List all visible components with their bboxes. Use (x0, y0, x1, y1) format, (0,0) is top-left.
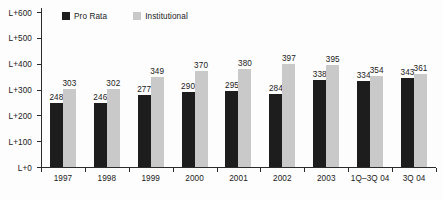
bar-value-label: 343 (401, 68, 415, 77)
x-axis-category-label: 2000 (185, 174, 204, 183)
bar-pair: 246302 (94, 89, 120, 167)
bar-pair: 343361 (401, 74, 427, 167)
bar-institutional (195, 71, 208, 167)
x-axis-tick (173, 168, 174, 172)
bar-pro-rata (138, 95, 151, 167)
x-axis-tick (304, 168, 305, 172)
bar-pro-rata (269, 94, 282, 167)
y-axis-tick: L+500 (37, 38, 41, 39)
x-axis-category-label: 3Q 04 (403, 174, 426, 183)
bar-institutional (414, 74, 427, 167)
bar-value-label: 334 (357, 71, 371, 80)
y-axis-tick-label: L+0 (18, 163, 32, 172)
bar-pair: 284397 (269, 64, 295, 167)
bar-institutional (63, 89, 76, 167)
bar-value-label: 277 (137, 85, 151, 94)
bar-pair: 295380 (225, 69, 251, 167)
bar-group: 3433613Q 04 (392, 74, 436, 167)
bar-pair: 248303 (50, 89, 76, 167)
bar-value-label: 302 (106, 79, 120, 88)
bar-group: 3383952003 (304, 65, 348, 167)
bar-group: 3343541Q–3Q 04 (348, 76, 392, 167)
bar-pro-rata (50, 103, 63, 167)
bar-institutional (107, 89, 120, 167)
x-axis-tick (436, 168, 437, 172)
bar-group: 2773491999 (129, 77, 173, 167)
bar-group: 2463021998 (85, 89, 129, 167)
x-axis-tick (217, 168, 218, 172)
bar-group: 2483031997 (41, 89, 85, 167)
bar-group: 2843972002 (260, 64, 304, 167)
x-axis-category-label: 2002 (273, 174, 292, 183)
x-axis-tick (260, 168, 261, 172)
bar-value-label: 248 (49, 93, 63, 102)
bar-value-label: 338 (313, 70, 327, 79)
x-axis-category-label: 1Q–3Q 04 (351, 174, 390, 183)
bar-institutional (370, 76, 383, 167)
bar-group: 2903702000 (173, 71, 217, 167)
y-axis-tick-label: L+300 (9, 86, 33, 95)
bar-value-label: 370 (194, 61, 208, 70)
x-axis-category-label: 1999 (141, 174, 160, 183)
bar-pro-rata (225, 91, 238, 167)
x-axis-category-label: 2001 (229, 174, 248, 183)
bar-pro-rata (313, 80, 326, 167)
bar-value-label: 354 (370, 66, 384, 75)
bar-value-label: 395 (326, 55, 340, 64)
bar-pro-rata (401, 78, 414, 167)
x-axis-category-label: 1998 (98, 174, 117, 183)
bar-value-label: 246 (93, 93, 107, 102)
y-axis-tick-label: L+200 (9, 111, 33, 120)
bar-value-label: 290 (181, 82, 195, 91)
bar-pair: 290370 (182, 71, 208, 167)
bar-group: 2953802001 (217, 69, 261, 167)
y-axis-tick: L+600 (37, 12, 41, 13)
bar-value-label: 349 (150, 67, 164, 76)
y-axis-tick-label: L+500 (9, 34, 33, 43)
bar-pro-rata (357, 81, 370, 167)
x-axis-tick (392, 168, 393, 172)
bar-institutional (326, 65, 339, 167)
y-axis-tick-label: L+100 (9, 137, 33, 146)
bar-value-label: 284 (269, 84, 283, 93)
bar-chart: Pro Rata Institutional L+600L+500L+400L+… (0, 0, 443, 200)
bar-pair: 338395 (313, 65, 339, 167)
x-axis-line (41, 167, 436, 168)
x-axis-tick (85, 168, 86, 172)
x-axis-tick (348, 168, 349, 172)
y-axis-tick-label: L+400 (9, 60, 33, 69)
x-axis-tick (129, 168, 130, 172)
x-axis-category-label: 2003 (317, 174, 336, 183)
x-axis-category-label: 1997 (54, 174, 73, 183)
bar-institutional (151, 77, 164, 167)
x-axis-tick (41, 168, 42, 172)
y-axis-tick-label: L+600 (9, 8, 33, 17)
bar-pair: 334354 (357, 76, 383, 167)
bar-value-label: 303 (62, 79, 76, 88)
bar-institutional (282, 64, 295, 167)
bar-value-label: 397 (282, 54, 296, 63)
bar-value-label: 380 (238, 59, 252, 68)
bar-value-label: 295 (225, 81, 239, 90)
bar-value-label: 361 (414, 64, 428, 73)
y-axis-tick: L+400 (37, 64, 41, 65)
bar-pair: 277349 (138, 77, 164, 167)
bar-institutional (238, 69, 251, 167)
plot-area: L+600L+500L+400L+300L+200L+100L+0 248303… (41, 13, 436, 168)
bar-pro-rata (182, 92, 195, 167)
bar-pro-rata (94, 103, 107, 167)
